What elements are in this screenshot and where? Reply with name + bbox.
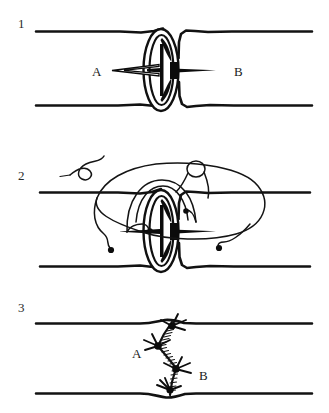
vessel-b-top-wall-2 — [179, 192, 311, 220]
suture-knot-top — [161, 314, 186, 330]
needle-tip-right — [216, 245, 222, 251]
vessel-a-bottom-wall-2 — [40, 266, 161, 272]
suture-free-knot — [70, 156, 104, 180]
suture-free-tail — [60, 175, 70, 177]
panel1-label-a: A — [92, 64, 102, 79]
vessel-b-cut-lumen — [170, 62, 179, 79]
needle-tip-left — [108, 247, 114, 253]
step-number-1: 1 — [18, 16, 25, 31]
panel-1-illustration: 1 — [0, 0, 329, 140]
suture-hatching — [160, 323, 179, 391]
panel-step-1: 1 — [0, 0, 329, 140]
panel-step-2: 2 — [0, 140, 329, 290]
needle-tip-cuff-left — [147, 228, 153, 234]
cuff-cross-spike-vertical-2 — [160, 205, 164, 257]
vessel-a-top-wall — [36, 29, 163, 33]
suture-small-loop-tail-left — [176, 173, 188, 192]
panel-2-illustration: 2 — [0, 140, 329, 290]
panel3-label-a: A — [132, 346, 142, 361]
panel-3-illustration: 3 — [0, 290, 329, 413]
panel-step-3: 3 — [0, 290, 329, 413]
panel1-label-b: B — [234, 64, 243, 79]
suture-knot-bottom — [157, 378, 181, 394]
step-number-3: 3 — [18, 300, 25, 315]
vessel-a-bottom-wall — [36, 105, 163, 111]
needle-tip-cuff-right — [183, 208, 189, 214]
surgical-figure: 1 — [0, 0, 329, 413]
vessel-b-bottom-wall — [179, 82, 312, 107]
panel3-label-b: B — [199, 368, 208, 383]
bottom-wall-anastomosed — [36, 394, 312, 398]
vessel-b-top-wall — [179, 31, 313, 59]
step-number-2: 2 — [18, 168, 25, 183]
vessel-b-bottom-wall-2 — [179, 243, 310, 268]
